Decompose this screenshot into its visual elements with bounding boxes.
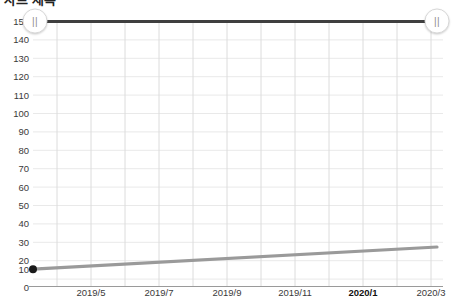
range-slider-left-handle[interactable]: || bbox=[23, 9, 48, 34]
x-axis-labels: 2019/5 2019/7 2019/9 2019/11 2020/1 2020… bbox=[0, 0, 458, 305]
x-tick-2019-9: 2019/9 bbox=[212, 288, 241, 298]
x-tick-2019-5: 2019/5 bbox=[76, 288, 105, 298]
range-slider-right-handle[interactable]: || bbox=[425, 9, 450, 34]
x-tick-2020-1: 2020/1 bbox=[348, 288, 377, 298]
grip-icon: || bbox=[434, 16, 440, 26]
x-tick-2020-3: 2020/3 bbox=[416, 288, 445, 298]
x-tick-2019-11: 2019/11 bbox=[278, 288, 312, 298]
grip-icon: || bbox=[32, 16, 38, 26]
x-tick-2019-7: 2019/7 bbox=[144, 288, 173, 298]
